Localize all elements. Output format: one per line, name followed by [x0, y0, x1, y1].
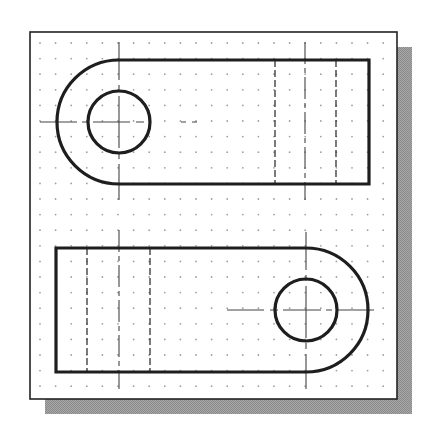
grid-dot [211, 151, 213, 153]
grid-dot [180, 198, 182, 200]
grid-dot [351, 120, 353, 122]
grid-dot [55, 167, 57, 169]
grid-dot [351, 89, 353, 91]
grid-dot [289, 120, 291, 122]
grid-dot [102, 167, 104, 169]
grid-dot [164, 73, 166, 75]
grid-dot [304, 136, 306, 138]
grid-dot [258, 307, 260, 309]
grid-dot [102, 385, 104, 387]
grid-dot [195, 151, 197, 153]
grid-dot [258, 261, 260, 263]
grid-dot [211, 198, 213, 200]
grid-dot [148, 136, 150, 138]
grid-dot [258, 385, 260, 387]
grid-dot [211, 42, 213, 44]
grid-dot [148, 42, 150, 44]
grid-dot [226, 339, 228, 341]
grid-dot [133, 73, 135, 75]
grid-dot [180, 307, 182, 309]
grid-dot [258, 354, 260, 356]
grid-dot [258, 105, 260, 107]
grid-dot [242, 89, 244, 91]
grid-dot [289, 151, 291, 153]
grid-dot [226, 167, 228, 169]
grid-dot [55, 183, 57, 185]
grid-dot [367, 214, 369, 216]
grid-dot [164, 229, 166, 231]
grid-dot [70, 229, 72, 231]
grid-dot [164, 354, 166, 356]
grid-dot [70, 73, 72, 75]
grid-dot [211, 214, 213, 216]
grid-dot [289, 214, 291, 216]
grid-dot [211, 261, 213, 263]
grid-dot [304, 214, 306, 216]
grid-dot [289, 339, 291, 341]
grid-dot [258, 276, 260, 278]
grid-dot [39, 261, 41, 263]
grid-dot [382, 229, 384, 231]
grid-dot [70, 42, 72, 44]
grid-dot [320, 292, 322, 294]
grid-dot [273, 229, 275, 231]
grid-dot [86, 58, 88, 60]
grid-dot [242, 73, 244, 75]
grid-dot [102, 292, 104, 294]
grid-dot [351, 136, 353, 138]
grid-dot [133, 229, 135, 231]
grid-dot [336, 354, 338, 356]
grid-dot [211, 339, 213, 341]
grid-dot [164, 136, 166, 138]
grid-dot [180, 229, 182, 231]
grid-dot [70, 89, 72, 91]
grid-dot [195, 136, 197, 138]
grid-dot [180, 354, 182, 356]
grid-dot [211, 136, 213, 138]
grid-dot [55, 89, 57, 91]
grid-dot [180, 323, 182, 325]
grid-dot [320, 198, 322, 200]
grid-dot [289, 292, 291, 294]
grid-dot [148, 214, 150, 216]
grid-dot [70, 276, 72, 278]
grid-dot [320, 105, 322, 107]
grid-dot [70, 58, 72, 60]
grid-dot [102, 151, 104, 153]
grid-dot [273, 167, 275, 169]
grid-dot [180, 276, 182, 278]
grid-dot [39, 292, 41, 294]
grid-dot [164, 323, 166, 325]
grid-dot [336, 198, 338, 200]
grid-dot [211, 105, 213, 107]
grid-dot [39, 214, 41, 216]
grid-dot [39, 370, 41, 372]
grid-dot [86, 276, 88, 278]
grid-dot [39, 89, 41, 91]
grid-dot [55, 385, 57, 387]
grid-dot [258, 229, 260, 231]
grid-dot [195, 198, 197, 200]
grid-dot [39, 307, 41, 309]
grid-dot [226, 276, 228, 278]
grid-dot [164, 198, 166, 200]
grid-dot [382, 261, 384, 263]
grid-dot [226, 73, 228, 75]
grid-dot [148, 73, 150, 75]
grid-dot [70, 183, 72, 185]
grid-dot [70, 151, 72, 153]
grid-dot [382, 276, 384, 278]
grid-dot [211, 120, 213, 122]
grid-dot [70, 339, 72, 341]
grid-dot [133, 307, 135, 309]
grid-dot [86, 42, 88, 44]
grid-dot [164, 307, 166, 309]
grid-dot [382, 339, 384, 341]
grid-dot [55, 151, 57, 153]
grid-dot [242, 323, 244, 325]
grid-dot [382, 292, 384, 294]
grid-dot [86, 198, 88, 200]
grid-dot [242, 261, 244, 263]
grid-dot [102, 105, 104, 107]
grid-dot [133, 151, 135, 153]
